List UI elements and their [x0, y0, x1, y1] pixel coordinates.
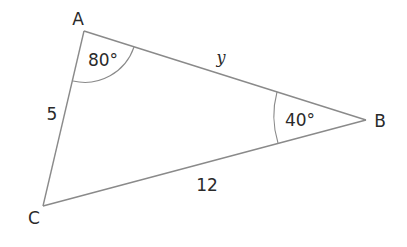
side-label-ac: 5 [47, 104, 58, 124]
vertex-label-c: C [28, 208, 40, 228]
triangle-diagram: A B C 80° 40° 5 y 12 [0, 0, 407, 247]
vertex-label-b: B [374, 111, 386, 131]
side-ab [84, 31, 366, 120]
angle-arc-b [274, 92, 278, 143]
side-label-bc: 12 [196, 175, 218, 195]
side-label-ab: y [215, 48, 226, 67]
vertex-label-a: A [72, 9, 84, 29]
angle-label-b: 40° [285, 110, 315, 130]
angle-label-a: 80° [88, 50, 118, 70]
